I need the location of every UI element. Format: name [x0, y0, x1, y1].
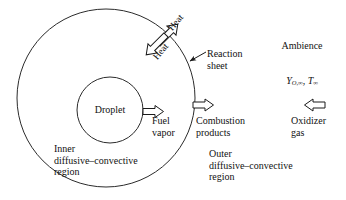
fuel-vapor-label: Fuel vapor [152, 115, 186, 138]
ambience-label: Ambience [266, 40, 338, 52]
reaction-sheet-pointer [190, 52, 206, 61]
droplet-label: Droplet [86, 104, 134, 116]
outer-region-label: Outer diffusive–convective region [209, 148, 313, 183]
oxidizer-gas-label: Oxidizer gas [291, 115, 336, 138]
ambience-block: Ambience YO,∞, T∞ [266, 17, 338, 111]
reaction-sheet-label: Reaction sheet [207, 48, 265, 71]
combustion-products-arrow [193, 99, 214, 111]
oxidizer-mass-fraction-subscript: O,∞ [292, 79, 303, 86]
inner-region-label: Inner diffusive–convective region [54, 143, 150, 178]
combustion-products-label: Combustion products [196, 115, 262, 138]
droplet-combustion-diagram: Droplet Fuel vapor Combustion products O… [0, 0, 346, 200]
temperature-subscript: ∞ [313, 79, 318, 86]
ambience-conditions-formula: YO,∞, T∞ [266, 75, 338, 89]
